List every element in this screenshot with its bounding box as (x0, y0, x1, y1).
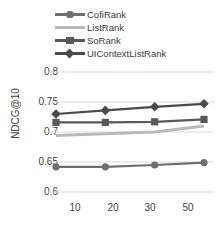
data-point-sorank (52, 119, 59, 126)
series-line-sorank (56, 119, 204, 122)
data-point-uicontextlistrank (199, 99, 209, 109)
data-point-uicontextlistrank (101, 106, 111, 116)
plot-area: NDCG@10 0.8 0.75 0.7 0.65 0.6 10 20 30 5… (0, 0, 223, 230)
data-point-sorank (102, 119, 109, 126)
data-point-sorank (151, 118, 158, 125)
data-point-sorank (200, 116, 207, 123)
data-point-cofirank (102, 163, 109, 170)
series-line-uicontextlistrank (56, 104, 204, 114)
data-point-cofirank (200, 159, 207, 166)
chart-figure: CofiRank ListRank SoRank UIContextListRa… (0, 0, 223, 230)
series-line-cofirank (56, 163, 204, 167)
data-point-cofirank (52, 163, 59, 170)
series-line-listrank (56, 126, 204, 136)
data-point-uicontextlistrank (51, 109, 61, 119)
data-point-uicontextlistrank (150, 102, 160, 112)
data-point-cofirank (151, 161, 158, 168)
series-layer (51, 99, 209, 170)
chart-canvas (0, 0, 223, 230)
